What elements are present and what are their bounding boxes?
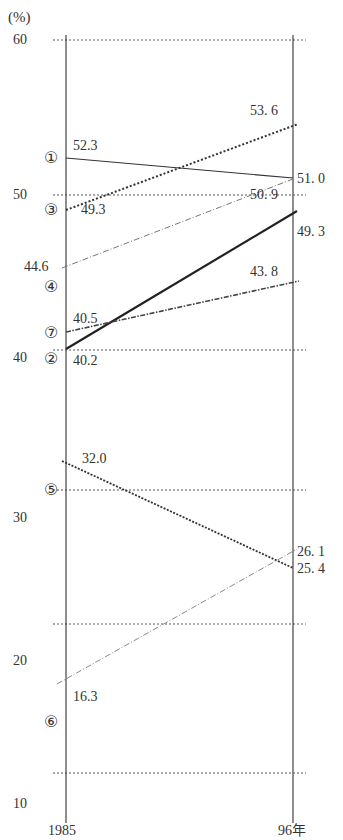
series-7-start-value: 40.5 — [73, 312, 98, 326]
series-3-marker: ③ — [44, 202, 58, 218]
series-6-end-value: 26. 1 — [297, 545, 325, 559]
y-tick-40: 40 — [13, 351, 27, 365]
y-tick-20: 20 — [13, 654, 27, 668]
series-7-line — [66, 281, 299, 332]
x-tick-96: 96年 — [278, 824, 306, 838]
y-tick-30: 30 — [13, 511, 27, 525]
series-2-line — [66, 211, 297, 349]
series-5-end-value: 25. 4 — [297, 562, 325, 576]
series-2-start-value: 40.2 — [73, 354, 98, 368]
series-6-marker: ⑥ — [44, 714, 58, 730]
series-3-end-value: 53. 6 — [250, 104, 278, 118]
series-2-end-value: 49. 3 — [297, 225, 325, 239]
series-4-marker: ④ — [44, 279, 58, 295]
series-1-end-value: 51. 0 — [297, 172, 325, 186]
line-chart: (%) 60 50 40 30 20 10 1985 96年 ① ② ③ ④ ⑤… — [0, 0, 343, 840]
series-1-marker: ① — [44, 150, 58, 166]
series-7-end-value: 43. 8 — [250, 265, 278, 279]
series-7-marker: ⑦ — [44, 325, 58, 341]
series-6-line — [57, 549, 297, 684]
y-tick-50: 50 — [13, 188, 27, 202]
y-tick-60: 60 — [13, 33, 27, 47]
series-5-marker: ⑤ — [44, 482, 58, 498]
series-4-end-value: 50. 9 — [250, 188, 278, 202]
series-3-start-value: 49.3 — [81, 203, 106, 217]
series-2-marker: ② — [44, 351, 58, 367]
series-1-start-value: 52.3 — [73, 139, 98, 153]
series-5-start-value: 32.0 — [82, 452, 107, 466]
series-4-start-value: 44.6 — [24, 260, 49, 274]
x-tick-1985: 1985 — [48, 824, 76, 838]
series-6-start-value: 16.3 — [73, 690, 98, 704]
y-axis-unit: (%) — [8, 10, 31, 24]
y-tick-10: 10 — [13, 797, 27, 811]
series-5-line — [62, 461, 293, 568]
